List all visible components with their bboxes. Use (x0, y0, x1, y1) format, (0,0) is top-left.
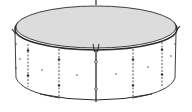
pool-cover (16, 6, 176, 48)
pool-cover-illustration (0, 0, 192, 112)
pool-drawing (0, 0, 192, 112)
ring-icon (95, 88, 98, 91)
ring-icon (95, 61, 98, 64)
